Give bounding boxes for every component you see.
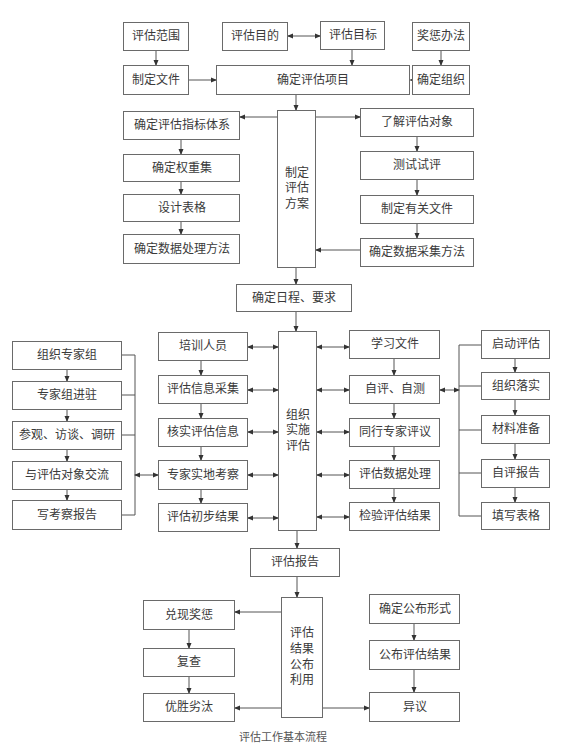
node-label: 评估目标 [329, 28, 377, 43]
node-label: 自评报告 [492, 466, 540, 481]
node-label: 检验评估结果 [359, 509, 431, 524]
node-label: 制定文件 [132, 73, 180, 88]
node-label: 异议 [403, 700, 427, 715]
node-label: 公布评估结果 [379, 648, 451, 663]
node-expert-2: 专家组进驻 [12, 381, 122, 410]
node-label: 评估报告 [271, 555, 319, 570]
node-label: 评估目的 [231, 29, 279, 44]
node-expert-4: 与评估对象交流 [12, 461, 122, 490]
node-make-doc: 制定文件 [123, 65, 189, 95]
node-label: 确定组织 [417, 73, 465, 88]
node-label: 确定数据处理方法 [134, 242, 230, 257]
node-impl-right-3: 同行专家评议 [349, 418, 440, 447]
node-label: 了解评估对象 [381, 115, 453, 130]
node-plan-center: 制定评估方案 [277, 110, 316, 268]
node-label: 核实评估信息 [167, 425, 239, 440]
node-schedule: 确定日程、要求 [236, 284, 352, 312]
node-plan-right-1: 了解评估对象 [360, 108, 474, 137]
node-label: 制定有关文件 [381, 202, 453, 217]
node-label: 专家组进驻 [37, 388, 97, 403]
node-expert-5: 写考察报告 [12, 500, 122, 530]
node-goal: 评估目标 [320, 21, 385, 50]
node-label: 确定公布形式 [379, 602, 451, 617]
node-impl-left-2: 评估信息采集 [158, 375, 248, 404]
node-impl-left-1: 培训人员 [158, 332, 248, 361]
node-impl-right-5: 检验评估结果 [349, 502, 440, 531]
node-impl-left-3: 核实评估信息 [158, 418, 248, 447]
node-label: 设计表格 [158, 201, 206, 216]
node-publish-left-2: 复查 [143, 648, 235, 677]
node-publish-right-2: 公布评估结果 [369, 640, 460, 670]
node-label: 参观、访谈、调研 [19, 428, 115, 443]
node-publish-left-3: 优胜劣汰 [143, 693, 235, 722]
node-label: 写考察报告 [37, 508, 97, 523]
node-label: 自评、自测 [365, 382, 425, 397]
node-label: 兑现奖惩 [165, 608, 213, 623]
node-label: 评估结果公布利用 [289, 626, 315, 688]
node-label: 专家实地考察 [167, 468, 239, 483]
node-label: 评估初步结果 [167, 510, 239, 525]
node-publish-center: 评估结果公布利用 [281, 597, 323, 718]
node-label: 奖惩办法 [417, 29, 465, 44]
node-plan-left-4: 确定数据处理方法 [123, 234, 240, 264]
node-label: 确定数据采集方法 [369, 245, 465, 260]
node-reward: 奖惩办法 [412, 22, 470, 51]
node-impl-right-1: 学习文件 [349, 330, 440, 359]
node-impl-right-4: 评估数据处理 [349, 460, 440, 489]
node-label: 培训人员 [179, 339, 227, 354]
node-self-4: 自评报告 [481, 459, 550, 488]
node-plan-left-2: 确定权重集 [123, 154, 240, 182]
node-impl-left-5: 评估初步结果 [158, 503, 248, 532]
node-impl-left-4: 专家实地考察 [158, 460, 248, 490]
node-plan-right-2: 测试试评 [360, 151, 474, 180]
node-label: 复查 [177, 655, 201, 670]
node-label: 制定评估方案 [284, 166, 310, 213]
node-scope: 评估范围 [123, 22, 189, 51]
node-expert-3: 参观、访谈、调研 [12, 421, 122, 450]
node-self-3: 材料准备 [481, 415, 550, 444]
node-plan-left-3: 设计表格 [123, 194, 240, 222]
node-label: 测试试评 [393, 158, 441, 173]
node-confirm-org: 确定组织 [412, 65, 470, 95]
node-publish-right-3: 异议 [369, 692, 460, 722]
node-self-5: 填写表格 [481, 502, 550, 530]
node-label: 组织专家组 [37, 348, 97, 363]
node-label: 组织实施评估 [285, 408, 311, 455]
node-label: 启动评估 [492, 337, 540, 352]
node-label: 组织落实 [492, 379, 540, 394]
node-label: 评估范围 [132, 29, 180, 44]
node-expert-1: 组织专家组 [12, 341, 122, 370]
node-confirm-project: 确定评估项目 [216, 65, 410, 95]
node-label: 与评估对象交流 [25, 468, 109, 483]
node-implement-center: 组织实施评估 [278, 331, 317, 531]
node-label: 优胜劣汰 [165, 700, 213, 715]
node-label: 评估数据处理 [359, 467, 431, 482]
node-label: 材料准备 [492, 422, 540, 437]
figure-caption: 评估工作基本流程 [0, 728, 566, 744]
node-label: 评估信息采集 [167, 382, 239, 397]
node-self-2: 组织落实 [481, 372, 550, 400]
node-purpose: 评估目的 [222, 22, 288, 51]
node-plan-right-3: 制定有关文件 [360, 195, 474, 224]
node-label: 学习文件 [371, 337, 419, 352]
node-publish-left-1: 兑现奖惩 [143, 600, 235, 630]
node-plan-right-4: 确定数据采集方法 [360, 238, 474, 267]
node-plan-left-1: 确定评估指标体系 [123, 111, 240, 140]
node-impl-right-2: 自评、自测 [349, 375, 440, 404]
node-label: 确定日程、要求 [252, 291, 336, 306]
node-label: 确定评估项目 [277, 73, 349, 88]
node-self-1: 启动评估 [481, 330, 550, 359]
node-label: 确定权重集 [152, 161, 212, 176]
node-publish-right-1: 确定公布形式 [369, 594, 460, 624]
node-label: 填写表格 [492, 509, 540, 524]
node-report: 评估报告 [250, 548, 340, 577]
node-label: 同行专家评议 [359, 425, 431, 440]
node-label: 确定评估指标体系 [134, 118, 230, 133]
